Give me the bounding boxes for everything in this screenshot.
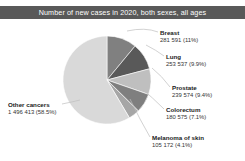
slice-label-breast: Breast 281 591 (11%) <box>160 29 198 44</box>
slice-label-breast-value: 281 591 (11%) <box>160 37 198 44</box>
slice-label-melanoma-name: Melanoma of skin <box>152 134 204 142</box>
slice-label-prostate-name: Prostate <box>172 84 212 92</box>
slice-label-lung-name: Lung <box>166 53 206 61</box>
slice-label-other: Other cancers 1 496 413 (58.5%) <box>8 101 56 116</box>
slice-label-colorectum-name: Colorectum <box>166 106 206 114</box>
slice-label-lung: Lung 253 537 (9.9%) <box>166 53 206 68</box>
slice-label-other-value: 1 496 413 (58.5%) <box>8 109 56 116</box>
pie-graphic <box>52 24 162 136</box>
slice-label-prostate: Prostate 239 574 (9.4%) <box>172 84 212 99</box>
slice-label-other-name: Other cancers <box>8 101 56 109</box>
chart-title: Number of new cases in 2020, both sexes,… <box>0 6 245 19</box>
slice-label-colorectum: Colorectum 180 575 (7.1%) <box>166 106 206 121</box>
slice-label-melanoma-value: 105 172 (4.1%) <box>152 142 204 149</box>
slice-label-prostate-value: 239 574 (9.4%) <box>172 92 212 99</box>
slice-label-lung-value: 253 537 (9.9%) <box>166 61 206 68</box>
pie-chart-figure: Number of new cases in 2020, both sexes,… <box>0 0 245 161</box>
slice-label-breast-name: Breast <box>160 29 198 37</box>
slice-label-colorectum-value: 180 575 (7.1%) <box>166 114 206 121</box>
slice-label-melanoma: Melanoma of skin 105 172 (4.1%) <box>152 134 204 149</box>
pie-svg <box>52 24 162 136</box>
